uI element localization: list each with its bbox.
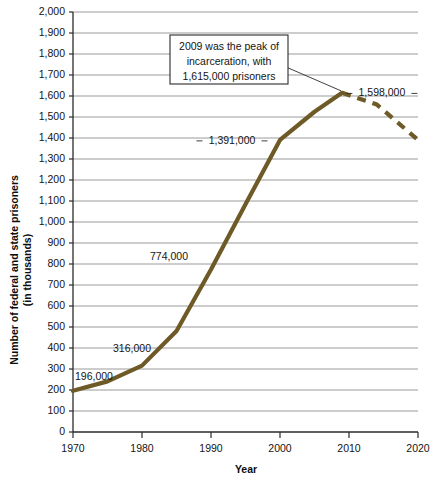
- y-tick-label: 1,800: [39, 47, 65, 59]
- data-point-label: 196,000: [75, 370, 113, 382]
- data-point-label: 1,391,000: [209, 134, 256, 146]
- chart-svg: 01002003004005006007008009001,0001,1001,…: [0, 0, 434, 481]
- y-tick-label: 100: [47, 404, 65, 416]
- y-tick-label: 500: [47, 320, 65, 332]
- y-tick-label: 1,500: [39, 110, 65, 122]
- x-tick-label: 2020: [406, 442, 430, 454]
- y-axis-title-line-1: Number of federal and state prisoners: [8, 175, 20, 365]
- y-tick-label: 1,000: [39, 215, 65, 227]
- y-tick-label: 1,900: [39, 26, 65, 38]
- callout-line-3: 1,615,000 prisoners: [183, 70, 276, 82]
- y-tick-label: 600: [47, 299, 65, 311]
- y-tick-label: 900: [47, 236, 65, 248]
- x-tick-label: 2010: [337, 442, 361, 454]
- y-tick-label: 300: [47, 362, 65, 374]
- x-tick-label: 1970: [61, 442, 85, 454]
- y-tick-label: 200: [47, 383, 65, 395]
- y-tick-label: 0: [59, 425, 65, 437]
- y-tick-label: 1,700: [39, 68, 65, 80]
- y-tick-label: 700: [47, 278, 65, 290]
- x-tick-label: 1980: [130, 442, 154, 454]
- y-tick-label: 1,600: [39, 89, 65, 101]
- y-axis-title-line-2: (in thousands): [21, 234, 33, 306]
- x-tick-label: 2000: [268, 442, 292, 454]
- data-point-label: 774,000: [150, 250, 188, 262]
- y-tick-label: 800: [47, 257, 65, 269]
- data-point-label: 316,000: [113, 342, 151, 354]
- x-axis-title: Year: [235, 463, 257, 475]
- y-tick-label: 1,300: [39, 152, 65, 164]
- y-tick-label: 1,200: [39, 173, 65, 185]
- incarceration-line-chart: 01002003004005006007008009001,0001,1001,…: [0, 0, 434, 481]
- x-tick-label: 1990: [199, 442, 223, 454]
- y-tick-label: 2,000: [39, 5, 65, 17]
- callout-line-2: incarceration, with: [187, 55, 272, 67]
- callout-line-1: 2009 was the peak of: [179, 40, 279, 52]
- y-tick-label: 1,400: [39, 131, 65, 143]
- y-tick-label: 1,100: [39, 194, 65, 206]
- data-point-label: 1,598,000: [359, 86, 406, 98]
- y-tick-label: 400: [47, 341, 65, 353]
